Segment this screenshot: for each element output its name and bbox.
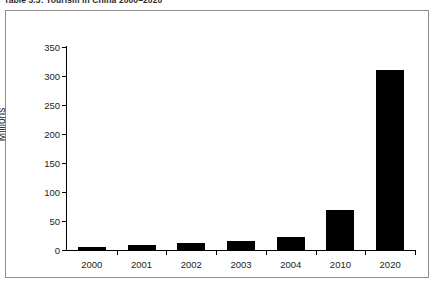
bar	[326, 210, 354, 250]
y-axis-tick	[62, 221, 66, 222]
x-axis-line	[66, 250, 416, 251]
x-axis-tick	[365, 251, 366, 255]
plot-area	[67, 47, 415, 250]
bar	[177, 243, 205, 250]
y-axis-tick-label: 200	[26, 129, 60, 140]
y-axis-tick-label: 50	[26, 216, 60, 227]
y-axis-title: Millions	[0, 108, 7, 141]
y-axis-tick	[62, 163, 66, 164]
bar	[78, 247, 106, 250]
chart-frame: Millions 050100150200250300350 200020012…	[5, 10, 429, 278]
bar	[128, 245, 156, 250]
bar	[277, 237, 305, 250]
x-axis-tick	[316, 251, 317, 255]
y-axis-tick	[62, 76, 66, 77]
y-axis-tick-label: 150	[26, 158, 60, 169]
y-axis-tick-label: 250	[26, 100, 60, 111]
y-axis-tick	[62, 192, 66, 193]
y-axis-tick	[62, 105, 66, 106]
y-axis-tick	[62, 47, 66, 48]
x-axis-tick	[266, 251, 267, 255]
x-axis-tick	[415, 251, 416, 255]
bar	[227, 241, 255, 250]
x-axis-tick	[166, 251, 167, 255]
y-axis-tick-label: 100	[26, 187, 60, 198]
y-axis-tick-label: 350	[26, 42, 60, 53]
table-caption: Table 3.3: Tourism in China 2000–2020	[4, 0, 162, 6]
y-axis-tick-label: 300	[26, 71, 60, 82]
y-axis-tick	[62, 250, 66, 251]
y-axis-tick	[62, 134, 66, 135]
y-axis-tick-label: 0	[26, 245, 60, 256]
x-axis-tick	[117, 251, 118, 255]
x-axis-tick	[216, 251, 217, 255]
bar	[376, 70, 404, 250]
x-axis-tick-label: 2020	[360, 259, 420, 270]
